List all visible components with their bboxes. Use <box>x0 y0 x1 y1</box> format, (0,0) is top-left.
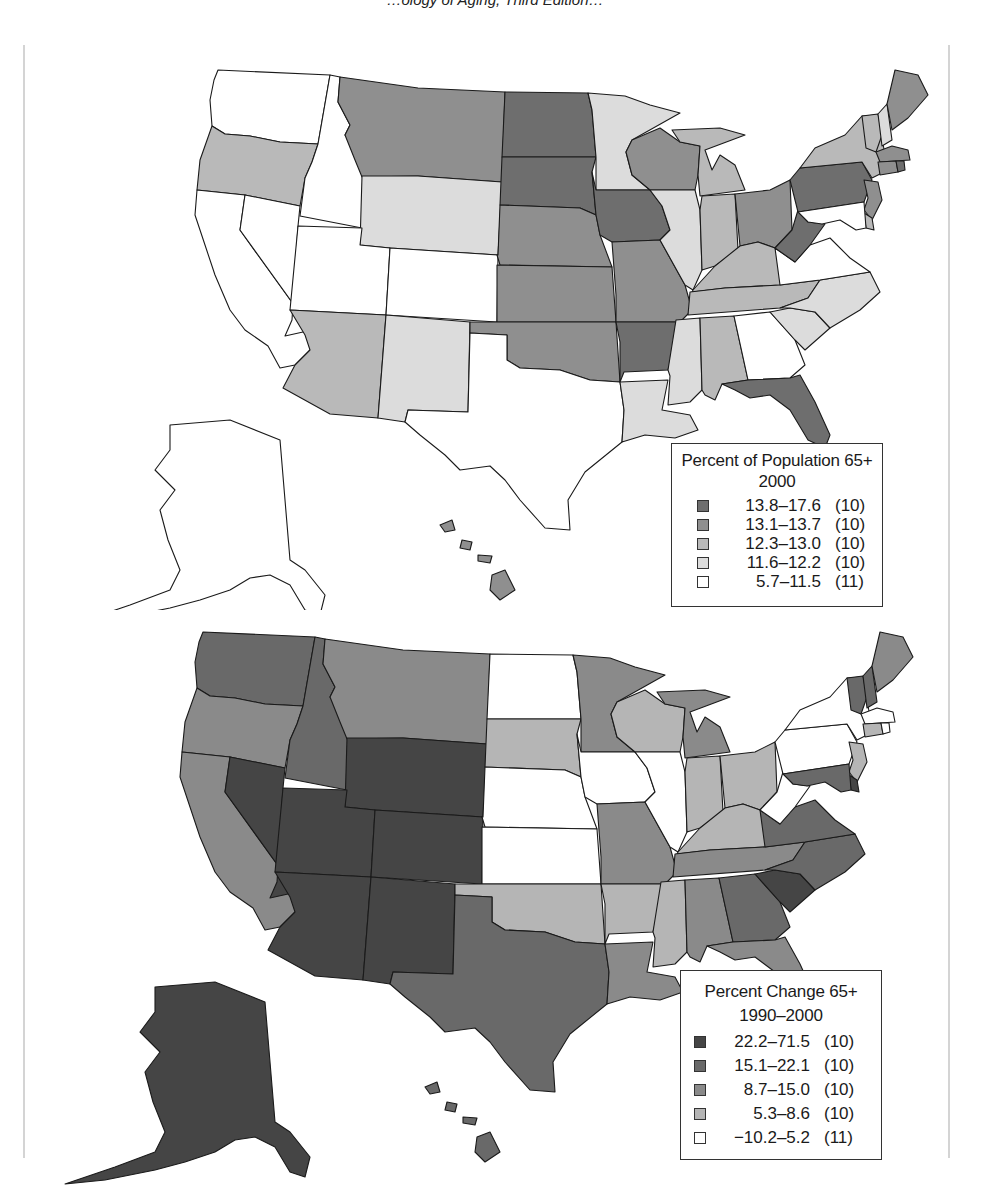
legend-count: (10) <box>824 1104 854 1124</box>
state-nm <box>378 315 470 422</box>
state-mt <box>338 77 505 182</box>
legend-row: 13.1–13.7 (10) <box>672 515 882 534</box>
legend-range: 22.2–71.5 <box>706 1032 810 1052</box>
state-me <box>887 70 928 130</box>
state-nj <box>864 180 882 220</box>
state-co <box>386 248 498 322</box>
legend-swatch-level5 <box>697 500 709 512</box>
legend-percent-65-plus-2000: Percent of Population 65+ 2000 13.8–17.6… <box>671 443 883 607</box>
state-wy <box>345 738 487 817</box>
state-ak <box>65 982 310 1184</box>
legend-range: 11.6–12.2 <box>709 553 821 573</box>
legend-swatch-level4 <box>697 519 709 531</box>
legend-row: −10.2–5.2 (11) <box>681 1126 881 1150</box>
legend-swatch-level3 <box>694 1084 706 1096</box>
state-fl <box>722 375 830 448</box>
legend-row: 15.1–22.1 (10) <box>681 1054 881 1078</box>
legend-swatch-level2 <box>694 1108 706 1120</box>
state-me <box>872 632 913 692</box>
state-wa <box>195 632 315 706</box>
legend-count: (10) <box>824 1056 854 1076</box>
legend-percent-change-65-plus: Percent Change 65+ 1990–2000 22.2–71.5 (… <box>680 970 882 1160</box>
legend-row: 13.8–17.6 (10) <box>672 496 882 515</box>
legend-swatch-level2 <box>697 557 709 569</box>
legend-count: (10) <box>824 1080 854 1100</box>
legend-range: 15.1–22.1 <box>706 1056 810 1076</box>
state-mt <box>323 639 490 744</box>
state-co <box>371 810 483 884</box>
legend-count: (10) <box>835 496 865 516</box>
legend-row: 11.6–12.2 (10) <box>672 553 882 572</box>
legend-count: (10) <box>835 553 865 573</box>
legend-range: −10.2–5.2 <box>706 1128 810 1148</box>
state-ri <box>881 723 890 734</box>
legend-range: 12.3–13.0 <box>709 534 821 554</box>
legend-swatch-level5 <box>694 1036 706 1048</box>
state-nj <box>849 742 867 782</box>
legend-count: (10) <box>835 534 865 554</box>
legend-count: (10) <box>835 515 865 535</box>
legend-range: 13.8–17.6 <box>709 496 821 516</box>
legend-swatch-level1 <box>697 576 709 588</box>
legend-title: Percent of Population 65+ <box>672 450 882 471</box>
legend-title: Percent Change 65+ <box>681 980 881 1004</box>
legend-range: 13.1–13.7 <box>709 515 821 535</box>
legend-swatch-level3 <box>697 538 709 550</box>
legend-range: 5.7–11.5 <box>709 572 821 592</box>
state-ks <box>482 827 601 884</box>
state-ct <box>878 161 898 175</box>
state-hi <box>440 520 515 600</box>
state-wy <box>360 176 502 255</box>
legend-row: 8.7–15.0 (10) <box>681 1078 881 1102</box>
state-ks <box>497 265 616 322</box>
state-ct <box>863 723 883 737</box>
legend-row: 12.3–13.0 (10) <box>672 534 882 553</box>
state-ri <box>896 161 905 172</box>
legend-swatch-level4 <box>694 1060 706 1072</box>
state-nm <box>363 877 455 984</box>
state-ne <box>482 767 597 829</box>
state-nd <box>502 92 596 157</box>
state-ne <box>497 205 612 267</box>
state-wa <box>210 70 330 144</box>
state-hi <box>425 1082 500 1162</box>
legend-count: (11) <box>824 1128 853 1148</box>
legend-row: 5.7–11.5 (11) <box>672 572 882 591</box>
legend-subtitle: 1990–2000 <box>681 1004 881 1028</box>
cut-off-header-text: …ology of Aging, Third Edition… <box>0 0 990 8</box>
legend-subtitle: 2000 <box>672 471 882 492</box>
state-nd <box>487 654 581 719</box>
legend-count: (11) <box>835 572 864 592</box>
state-ak <box>80 420 325 610</box>
legend-range: 8.7–15.0 <box>706 1080 810 1100</box>
legend-swatch-level1 <box>694 1132 706 1144</box>
legend-row: 5.3–8.6 (10) <box>681 1102 881 1126</box>
legend-range: 5.3–8.6 <box>706 1104 810 1124</box>
legend-row: 22.2–71.5 (10) <box>681 1030 881 1054</box>
legend-count: (10) <box>824 1032 854 1052</box>
